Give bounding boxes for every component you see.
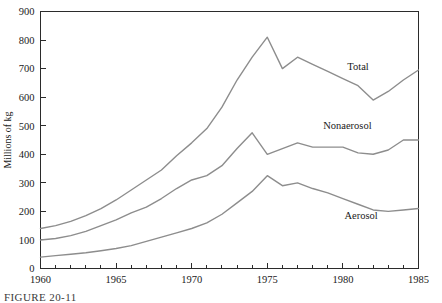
y-tick-label: 400 [19, 149, 35, 160]
x-tick-label: 1985 [408, 274, 429, 285]
y-tick-label: 800 [19, 35, 35, 46]
y-tick-label: 200 [19, 206, 35, 217]
y-tick-label: 500 [19, 121, 35, 132]
series-label-nonaerosol: Nonaerosol [323, 120, 371, 131]
series-label-aerosol: Aerosol [344, 210, 377, 221]
figure-caption: FIGURE 20-11 [4, 291, 77, 303]
chart-background [0, 0, 442, 303]
figure-container: 0100200300400500600700800900 19601965197… [0, 0, 442, 303]
y-axis-label: Millions of kg [2, 111, 13, 168]
x-tick-label: 1975 [257, 274, 278, 285]
x-tick-label: 1960 [30, 274, 51, 285]
x-tick-label: 1970 [181, 274, 202, 285]
y-tick-label: 700 [19, 63, 35, 74]
line-chart: 0100200300400500600700800900 19601965197… [0, 0, 442, 303]
y-tick-label: 900 [19, 6, 35, 17]
y-tick-label: 600 [19, 92, 35, 103]
y-tick-label: 300 [19, 178, 35, 189]
x-tick-label: 1965 [106, 274, 127, 285]
y-tick-label: 100 [19, 235, 35, 246]
series-label-total: Total [347, 61, 369, 72]
x-tick-label: 1980 [332, 274, 353, 285]
